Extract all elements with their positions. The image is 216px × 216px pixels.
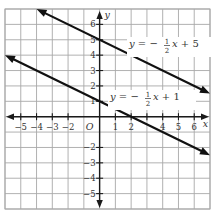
y-tick-label: −2 xyxy=(83,142,96,152)
x-axis-label: x xyxy=(203,118,209,129)
equation-prefix: = − xyxy=(135,38,158,49)
x-tick-label: −5 xyxy=(15,122,28,132)
fraction-numerator: 1 xyxy=(165,38,169,46)
y-tick-label: −5 xyxy=(83,189,96,199)
fraction-denominator: 2 xyxy=(165,47,169,55)
origin-label: O xyxy=(86,121,94,132)
y-axis-label: y xyxy=(104,9,111,20)
line-arrow-end-icon xyxy=(199,147,210,155)
y-axis-down-arrow-icon xyxy=(96,200,102,208)
line-arrow-start-icon xyxy=(37,9,48,17)
labels: y = −12x + 5y = −12x + 1 xyxy=(108,37,215,110)
y-tick-label: −3 xyxy=(83,158,96,168)
x-tick-label: 6 xyxy=(192,122,197,132)
line-arrow-start-icon xyxy=(5,55,16,63)
x-tick-label: 5 xyxy=(176,122,181,132)
fraction-numerator: 1 xyxy=(146,91,150,99)
x-tick-label: −2 xyxy=(62,122,75,132)
x-axis-left-arrow-icon xyxy=(6,113,14,119)
equation-suffix: x + 1 xyxy=(153,91,180,102)
y-axis-up-arrow-icon xyxy=(96,11,102,19)
x-tick-label: −3 xyxy=(46,122,59,132)
coordinate-plane: −5−4−3−212456−5−4−3−2123456Oxy y = −12x … xyxy=(0,0,216,216)
fraction-denominator: 2 xyxy=(146,100,150,108)
y-tick-label: 4 xyxy=(90,50,95,60)
y-tick-label: 3 xyxy=(90,66,95,76)
series-lines xyxy=(5,9,210,155)
y-tick-label: 2 xyxy=(90,81,95,91)
equation-constant: + 1 xyxy=(159,91,180,102)
line-arrow-end-icon xyxy=(199,86,210,94)
equation-constant: + 5 xyxy=(178,38,199,49)
x-tick-label: 2 xyxy=(128,122,133,132)
equation-suffix: x + 5 xyxy=(172,38,199,49)
equation-prefix: = − xyxy=(116,91,139,102)
equation-label-2: y = −12x + 1 xyxy=(108,90,196,110)
y-tick-label: 6 xyxy=(90,19,95,29)
x-tick-label: −4 xyxy=(30,122,43,132)
equation-text: y = − xyxy=(109,91,139,102)
equation-text: y = − xyxy=(128,38,158,49)
x-tick-label: 1 xyxy=(113,122,118,132)
y-tick-label: −4 xyxy=(83,173,96,183)
equation-label-1: y = −12x + 5 xyxy=(127,37,215,57)
